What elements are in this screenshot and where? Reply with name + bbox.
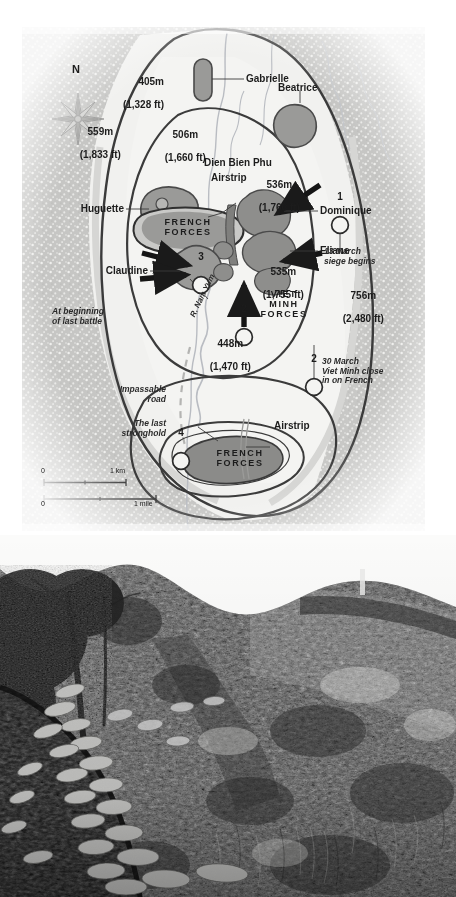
annotation-last-battle: At beginningof last battle [52,307,104,326]
phase-marker-3: 3 [194,251,208,262]
viet-minh-forces-label: VIETMINHFORCES [242,289,326,319]
trench-photograph [0,535,456,897]
elevation-448-meters: 448m [218,338,244,349]
elevation-559-feet: (1,833 ft) [80,149,121,160]
phase-marker-2-lower: 2 [307,353,321,364]
elevation-448-label: 448m (1,470 ft) [182,327,262,383]
elevation-756-feet: (2,480 ft) [343,313,384,324]
elevation-506-meters: 506m [173,129,199,140]
scale-km-label: 1 km [110,467,125,475]
strongpoint-beatrice-label: Beatrice [278,82,317,93]
phase-marker-1: 1 [333,191,347,202]
scale-km-zero: 0 [41,467,45,475]
elevation-536-feet: (1,760 ft) [259,202,300,213]
place-dien-bien-phu-label: Dien Bien Phu [204,157,272,168]
strongpoint-claudine-label: Claudine [52,265,148,276]
strongpoint-dominique-label: Dominique [320,205,372,216]
elevation-405-label: 405m (1,328 ft) [102,65,164,121]
elevation-559-label: 559m (1,833 ft) [52,115,132,171]
elevation-405-meters: 405m [138,76,164,87]
french-forces-upper-label: FRENCHFORCES [140,217,236,237]
annotation-30-march: 30 MarchViet Minh closein on French [322,357,384,386]
phase-marker-2-upper: 2 [237,303,251,314]
elevation-536-label: 536m (1,760 ft) [234,168,308,224]
elevation-405-feet: (1,328 ft) [123,99,164,110]
page-root: N 405m (1,328 ft) Gabrielle 559m (1,833 … [0,0,456,897]
annotation-impassable-road: Impassableroad [74,385,166,404]
annotation-last-stronghold: The laststronghold [62,419,166,438]
dien-bien-phu-map: N 405m (1,328 ft) Gabrielle 559m (1,833 … [22,27,425,531]
scale-mile-zero: 0 [41,500,45,508]
strongpoint-huguette-label: Huguette [52,203,124,214]
scale-mile-label: 1 mile [134,500,153,508]
airstrip-lower-label: Airstrip [274,420,310,431]
compass-north-label: N [72,63,80,75]
elevation-756-meters: 756m [351,290,377,301]
annotation-13-march: 13 Marchsiege begins [324,247,376,266]
elevation-536-meters: 536m [267,179,293,190]
elevation-559-meters: 559m [88,126,114,137]
elevation-448-feet: (1,470 ft) [210,361,251,372]
french-forces-lower-label: FRENCHFORCES [194,448,286,468]
phase-marker-4: 4 [174,427,188,438]
elevation-535-meters: 535m [271,266,297,277]
elevation-506-feet: (1,660 ft) [165,152,206,163]
photograph-graphics [0,535,456,897]
